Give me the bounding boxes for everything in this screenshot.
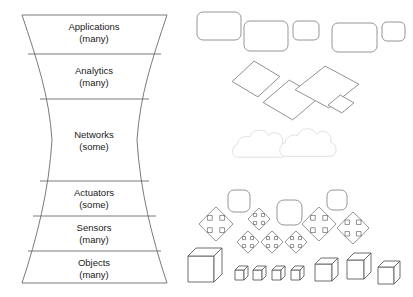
diagram-canvas: Applications (many) Analytics (many) Net… xyxy=(0,0,413,297)
actuator-square-0 xyxy=(228,190,250,212)
network-clouds-group xyxy=(232,129,336,157)
object-cube-0-front xyxy=(188,256,214,282)
application-rect-2 xyxy=(293,21,319,40)
application-rect-0 xyxy=(197,12,241,40)
application-rect-3 xyxy=(332,23,377,52)
object-cube-2 xyxy=(253,266,266,280)
object-cube-4-front xyxy=(291,270,300,280)
object-cube-5-front xyxy=(315,264,332,281)
application-rect-4 xyxy=(382,22,405,41)
network-cloud-1 xyxy=(280,129,336,157)
actuator-square-1 xyxy=(277,200,302,225)
object-cube-3 xyxy=(272,266,285,280)
object-cube-2-front xyxy=(253,270,262,280)
sensor-burst-2 xyxy=(302,207,336,241)
object-cube-6 xyxy=(347,253,371,279)
object-cube-7-front xyxy=(378,267,394,284)
application-rect-1 xyxy=(244,21,288,51)
object-cube-1-front xyxy=(235,270,244,280)
sensor-burst-5 xyxy=(261,231,283,253)
sensor-burst-4 xyxy=(237,231,259,253)
analytics-diamonds-group xyxy=(230,59,360,123)
network-cloud-0 xyxy=(232,130,287,157)
sensor-burst-6 xyxy=(285,231,307,253)
actuator-square-2 xyxy=(327,190,347,210)
object-cube-5 xyxy=(315,258,338,281)
object-cube-0 xyxy=(188,248,222,282)
object-cube-6-front xyxy=(347,260,364,279)
sensor-burst-1 xyxy=(248,208,270,230)
application-rectangles-group xyxy=(197,12,405,52)
illustration-svg xyxy=(0,0,413,297)
object-cube-7 xyxy=(378,261,400,284)
sensor-burst-3 xyxy=(337,212,369,244)
object-cubes-group xyxy=(188,248,400,284)
object-cube-3-front xyxy=(272,270,281,280)
sensor-burst-0 xyxy=(199,207,233,241)
object-cube-4 xyxy=(291,266,304,280)
object-cube-1 xyxy=(235,266,248,280)
